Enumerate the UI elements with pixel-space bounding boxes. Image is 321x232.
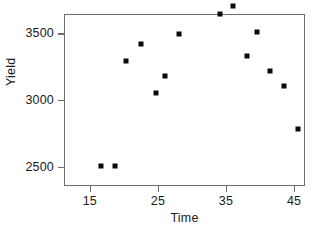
x-axis-tick-label: 35 bbox=[219, 194, 233, 208]
x-axis-tick bbox=[226, 186, 227, 192]
scatter-plot-figure: 2500300035004000 15253545 Yield Time bbox=[0, 0, 321, 232]
plot-frame bbox=[64, 14, 305, 186]
x-axis-tick-label: 25 bbox=[151, 194, 165, 208]
x-axis-tick bbox=[90, 186, 91, 192]
x-axis-tick-label: 45 bbox=[287, 194, 301, 208]
data-point bbox=[139, 42, 144, 47]
data-point bbox=[254, 29, 259, 34]
data-point bbox=[123, 59, 128, 64]
data-points-layer bbox=[65, 15, 304, 185]
data-point bbox=[231, 3, 236, 8]
data-point bbox=[177, 31, 182, 36]
data-point bbox=[113, 163, 118, 168]
y-axis-title: Yield bbox=[4, 58, 18, 86]
x-axis-tick-label: 15 bbox=[83, 194, 97, 208]
data-point bbox=[217, 12, 222, 17]
data-point bbox=[99, 164, 104, 169]
data-point bbox=[153, 91, 158, 96]
x-axis-tick bbox=[158, 186, 159, 192]
y-axis-tick-label: 3500 bbox=[25, 26, 54, 40]
data-point bbox=[163, 73, 168, 78]
x-axis-title: Time bbox=[64, 211, 305, 225]
y-axis-tick-label: 2500 bbox=[25, 160, 54, 174]
data-point bbox=[295, 127, 300, 132]
data-point bbox=[244, 53, 249, 58]
data-point bbox=[282, 83, 287, 88]
x-axis-tick bbox=[294, 186, 295, 192]
data-point bbox=[267, 69, 272, 74]
y-axis-tick-label: 3000 bbox=[25, 93, 54, 107]
